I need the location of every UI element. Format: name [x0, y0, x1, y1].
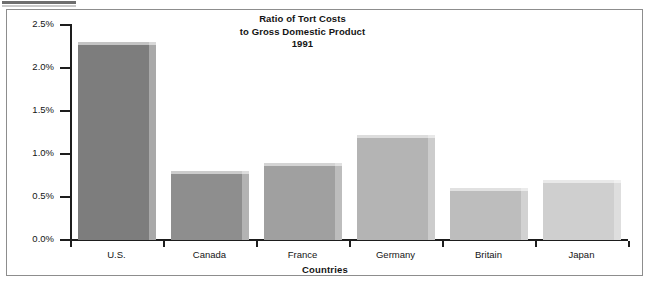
bar-side-highlight [614, 180, 621, 240]
x-tick-mark-5 [535, 241, 537, 247]
x-tick-mark-4 [442, 241, 444, 247]
category-label-2: France [256, 249, 349, 260]
chart-title-line-1: Ratio of Tort Costs [195, 13, 410, 26]
bar-top-highlight [543, 180, 621, 183]
category-label-4: Britain [442, 249, 535, 260]
x-tick-mark-end [628, 241, 630, 247]
category-label-1: Canada [163, 249, 256, 260]
y-tick-mark-1 [60, 67, 72, 69]
bar-us [78, 42, 156, 240]
x-tick-mark-2 [256, 241, 258, 247]
y-tick-label-3: 1.0% [8, 147, 54, 158]
y-tick-label-4: 0.5% [8, 190, 54, 201]
scan-artifact-top-left-light [2, 5, 76, 7]
y-tick-label-0: 2.5% [8, 18, 54, 29]
x-tick-mark-1 [163, 241, 165, 247]
y-tick-label-1: 2.0% [8, 61, 54, 72]
x-tick-mark-3 [349, 241, 351, 247]
y-tick-label-5: 0.0% [8, 233, 54, 244]
bar-top-highlight [171, 171, 249, 174]
x-axis-title: Countries [0, 264, 650, 275]
bar-germany [357, 135, 435, 240]
x-tick-mark-0 [70, 241, 72, 247]
bar-japan [543, 180, 621, 240]
chart-title: Ratio of Tort Costs to Gross Domestic Pr… [195, 13, 410, 51]
bar-side-highlight [335, 163, 342, 240]
bar-face [450, 188, 521, 240]
bar-top-highlight [264, 163, 342, 166]
bar-top-highlight [78, 42, 156, 45]
bar-face [264, 163, 335, 240]
bar-top-highlight [450, 188, 528, 191]
bar-face [543, 180, 614, 240]
chart-title-line-3: 1991 [195, 38, 410, 51]
bar-top-highlight [357, 135, 435, 138]
y-tick-mark-0 [60, 24, 72, 26]
bar-britain [450, 188, 528, 240]
bar-side-highlight [242, 171, 249, 240]
chart-title-line-2: to Gross Domestic Product [195, 26, 410, 39]
category-label-3: Germany [349, 249, 442, 260]
bar-canada [171, 171, 249, 240]
bar-face [357, 135, 428, 240]
y-tick-mark-4 [60, 196, 72, 198]
scan-artifact-top-left [2, 1, 76, 4]
y-axis-line [70, 24, 72, 241]
bar-france [264, 163, 342, 240]
y-tick-mark-3 [60, 153, 72, 155]
bar-face [78, 42, 149, 240]
chart-screenshot: Ratio of Tort Costs to Gross Domestic Pr… [0, 0, 650, 286]
bar-side-highlight [428, 135, 435, 240]
y-tick-label-2: 1.5% [8, 104, 54, 115]
bar-side-highlight [149, 42, 156, 240]
bar-side-highlight [521, 188, 528, 240]
category-label-5: Japan [535, 249, 628, 260]
bar-face [171, 171, 242, 240]
y-tick-mark-2 [60, 110, 72, 112]
category-label-0: U.S. [70, 249, 163, 260]
